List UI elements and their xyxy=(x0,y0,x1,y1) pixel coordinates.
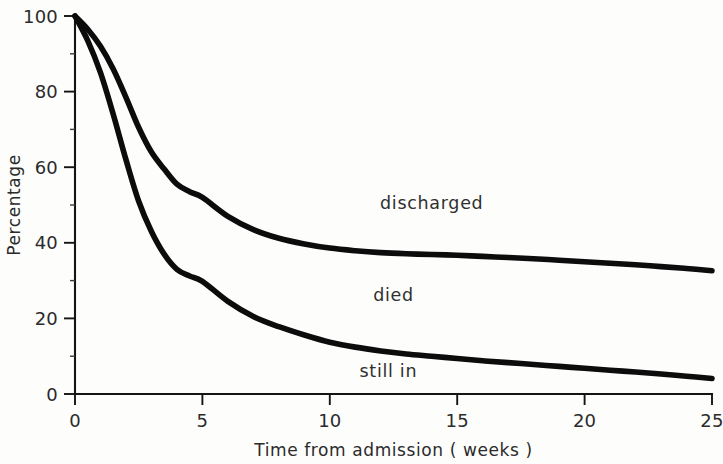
x-tick-label: 5 xyxy=(197,410,209,431)
x-tick-label: 20 xyxy=(573,410,596,431)
x-axis-ticks xyxy=(75,394,712,405)
x-tick-label: 10 xyxy=(318,410,341,431)
region-label-still-in: still in xyxy=(360,361,418,381)
y-axis-title: Percentage xyxy=(4,154,24,256)
x-tick-label: 0 xyxy=(69,410,81,431)
y-tick-label: 60 xyxy=(35,157,58,178)
series-curve-discharged-boundary xyxy=(75,16,712,271)
x-tick-label: 15 xyxy=(446,410,469,431)
x-tick-label: 25 xyxy=(700,410,723,431)
y-tick-label: 80 xyxy=(35,81,58,102)
chart-figure: 020406080100 0510152025 dischargeddiedst… xyxy=(0,0,723,464)
region-label-discharged: discharged xyxy=(380,193,483,213)
y-tick-label: 20 xyxy=(35,308,58,329)
y-axis-tick-labels: 020406080100 xyxy=(23,6,58,405)
y-tick-label: 0 xyxy=(46,384,58,405)
chart-canvas: 020406080100 0510152025 dischargeddiedst… xyxy=(0,0,723,464)
y-tick-label: 100 xyxy=(23,6,58,27)
x-axis-title: Time from admission ( weeks ) xyxy=(253,440,532,460)
x-axis-tick-labels: 0510152025 xyxy=(69,410,723,431)
y-tick-label: 40 xyxy=(35,232,58,253)
region-label-died: died xyxy=(373,285,414,305)
